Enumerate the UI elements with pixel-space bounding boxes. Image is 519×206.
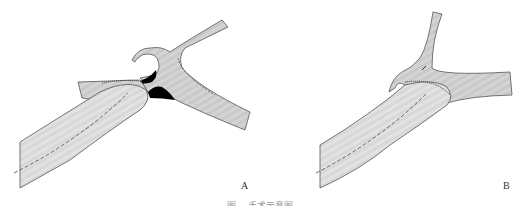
panel-label-a: A	[241, 180, 248, 191]
panel-a	[14, 20, 250, 188]
proximal-vessel-b	[320, 82, 451, 188]
bifurcation-vessel-a	[132, 20, 250, 130]
proximal-vessel-a	[20, 84, 148, 188]
panel-b	[316, 12, 512, 188]
figure-caption: 图 手术示意图	[200, 199, 320, 206]
surgical-diagram	[0, 0, 519, 206]
panel-label-b: B	[503, 180, 510, 191]
